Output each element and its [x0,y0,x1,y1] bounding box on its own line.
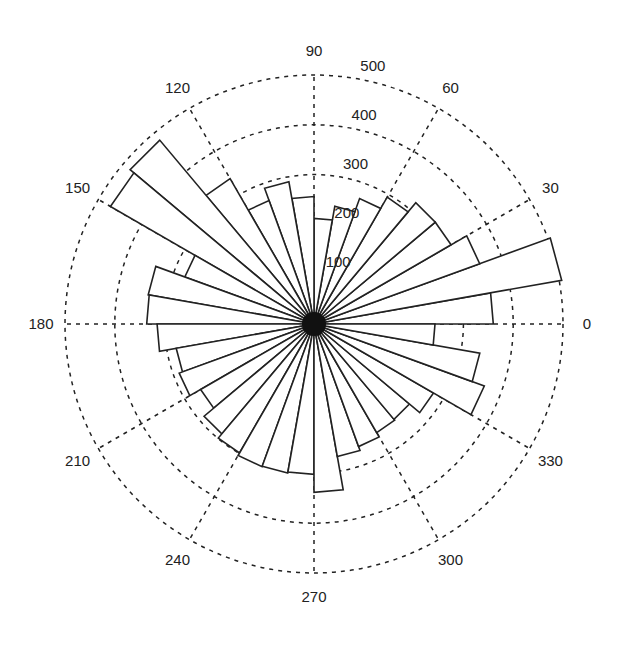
angle-label-60: 60 [442,79,459,96]
radial-label-200: 200 [334,204,359,221]
angle-label-0: 0 [583,315,591,332]
angle-label-180: 180 [28,315,53,332]
angle-label-90: 90 [306,42,323,59]
angle-label-300: 300 [438,551,463,568]
polar-plot-area: 0306090120150180210240270300330 10020030… [0,0,618,646]
rose-bars [110,140,561,492]
angle-label-120: 120 [165,79,190,96]
angle-label-210: 210 [65,452,90,469]
radial-label-100: 100 [326,253,351,270]
angle-label-330: 330 [538,452,563,469]
radial-label-500: 500 [360,57,385,74]
angle-label-240: 240 [165,551,190,568]
radial-label-400: 400 [352,106,377,123]
angle-label-150: 150 [65,179,90,196]
polar-rose-chart: 0306090120150180210240270300330 10020030… [0,0,618,646]
angle-label-30: 30 [542,179,559,196]
radial-label-300: 300 [343,155,368,172]
angle-label-270: 270 [301,588,326,605]
center-hub [302,312,326,336]
